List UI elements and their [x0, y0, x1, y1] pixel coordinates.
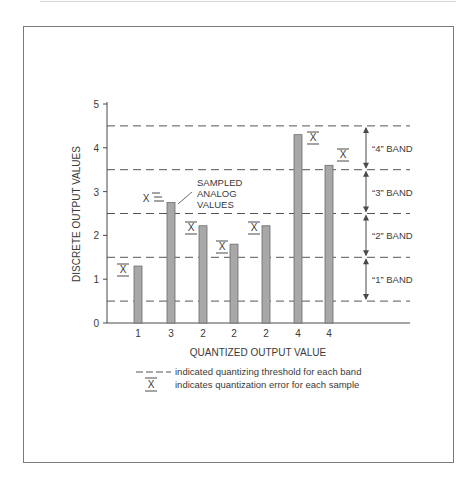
bar	[134, 266, 142, 323]
annotation-text: SAMPLED	[197, 177, 243, 188]
legend-error-symbol: X	[148, 379, 155, 390]
y-tick-label: 1	[93, 274, 99, 285]
bar	[199, 226, 207, 323]
band-label: “3” BAND	[372, 187, 413, 198]
legend-text: indicates quantization error for each sa…	[175, 379, 359, 390]
y-tick-label: 5	[93, 99, 99, 110]
arrow-up-icon	[363, 258, 369, 264]
error-marker: X	[340, 149, 347, 160]
y-tick-label: 2	[93, 230, 99, 241]
error-marker: X	[120, 264, 127, 275]
error-marker: X	[251, 222, 258, 233]
bar	[325, 165, 333, 323]
x-tick-label: 2	[200, 328, 206, 339]
arrow-down-icon	[363, 163, 369, 169]
bar	[262, 226, 270, 323]
annotation-text: ANALOG	[197, 188, 237, 199]
arrow-up-icon	[363, 127, 369, 133]
arrow-down-icon	[363, 250, 369, 256]
x-tick-label: 2	[263, 328, 269, 339]
x-tick-label: 3	[168, 328, 174, 339]
band-label: “1” BAND	[372, 274, 413, 285]
y-tick-label: 0	[93, 318, 99, 329]
bar	[230, 244, 238, 323]
annotation-text: VALUES	[197, 199, 234, 210]
y-tick-label: 3	[93, 187, 99, 198]
arrow-down-icon	[363, 207, 369, 213]
annotation-leader	[178, 192, 192, 204]
error-marker: X	[219, 241, 226, 252]
x-axis-label: QUANTIZED OUTPUT VALUE	[190, 347, 327, 358]
legend-text: indicated quantizing threshold for each …	[175, 366, 361, 377]
arrow-up-icon	[363, 171, 369, 177]
x-tick-label: 1	[135, 328, 141, 339]
bar	[294, 135, 302, 323]
error-marker: X	[188, 222, 195, 233]
x-tick-label: 2	[231, 328, 237, 339]
band-label: “4” BAND	[372, 143, 413, 154]
x-tick-label: 4	[326, 328, 332, 339]
y-tick-label: 4	[93, 143, 99, 154]
y-axis-label: DISCRETE OUTPUT VALUES	[71, 146, 82, 282]
arrow-up-icon	[363, 215, 369, 221]
band-label: “2” BAND	[372, 230, 413, 241]
bar	[167, 203, 175, 323]
x-tick-label: 4	[295, 328, 301, 339]
quantization-chart: 012345DISCRETE OUTPUT VALUES1322244XXXXX…	[0, 0, 476, 490]
arrow-down-icon	[363, 294, 369, 300]
error-marker: X	[143, 193, 150, 204]
error-marker: X	[310, 132, 317, 143]
